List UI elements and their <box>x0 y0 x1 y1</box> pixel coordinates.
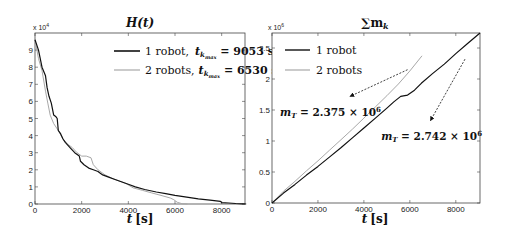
right-y-multiplier: x 106 <box>268 22 284 31</box>
x-tick-label: 6000 <box>166 206 184 215</box>
figure: 020004000600080000123456789 x 104 H(t) t… <box>0 0 507 235</box>
y-tick-label: 2 <box>29 166 34 175</box>
y-tick-label: 5 <box>29 115 34 124</box>
x-tick-label: 8000 <box>447 205 465 214</box>
left-plot: 020004000600080000123456789 x 104 H(t) t… <box>29 16 278 226</box>
x-tick-label: 8000 <box>213 206 231 215</box>
y-tick-label: 1.5 <box>259 106 271 115</box>
y-tick-label: 2.5 <box>259 44 271 53</box>
left-y-multiplier: x 104 <box>33 22 49 31</box>
y-tick-label: 1 <box>266 137 271 146</box>
y-tick-label: 0 <box>266 199 271 208</box>
right-plot: 0200040006000800000.511.522.5 mT = 2.375… <box>259 16 482 226</box>
x-tick-label: 2000 <box>309 205 327 214</box>
y-tick-label: 8 <box>29 63 34 72</box>
y-tick-label: 7 <box>29 80 34 89</box>
x-tick-label: 2000 <box>73 206 91 215</box>
y-tick-label: 0.5 <box>259 168 271 177</box>
y-tick-label: 6 <box>29 97 34 106</box>
right-xlabel: t[s] <box>362 212 389 226</box>
y-tick-label: 9 <box>29 46 34 55</box>
x-tick-label: 6000 <box>401 205 419 214</box>
right-title: ∑mk <box>361 16 389 31</box>
y-tick-label: 2 <box>266 75 271 84</box>
left-title: H(t) <box>125 16 154 30</box>
x-tick-label: 0 <box>270 205 275 214</box>
left-xlabel: t[s] <box>127 212 154 226</box>
legend-label-1-robot: 1 robot <box>316 44 357 57</box>
y-tick-label: 4 <box>29 132 34 141</box>
x-tick-label: 0 <box>33 206 38 215</box>
y-tick-label: 3 <box>29 149 34 158</box>
legend-label-2-robots: 2 robots <box>316 64 362 77</box>
y-tick-label: 1 <box>29 183 34 192</box>
y-tick-label: 0 <box>29 200 34 209</box>
